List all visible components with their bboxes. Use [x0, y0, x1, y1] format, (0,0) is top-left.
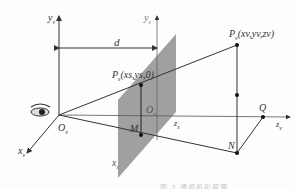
diagram-canvas: yv ys d Pv(xv,yv,zv) Ps(xs,ys,0) Ov Os M… — [0, 0, 295, 189]
z-axis — [59, 115, 290, 117]
n-q-line — [237, 117, 263, 153]
q-label: Q — [259, 103, 266, 113]
point-pv — [235, 43, 239, 47]
point-m — [139, 133, 143, 137]
point-n — [235, 151, 239, 155]
ys-label: ys — [144, 13, 151, 25]
d-label: d — [114, 37, 120, 48]
xs-label: xs — [112, 158, 119, 170]
zv-label: zv — [276, 121, 282, 131]
ps-label: Ps(xs,ys,0) — [112, 70, 154, 82]
zs-label: zs — [174, 120, 179, 130]
xv-label: xv — [18, 146, 25, 158]
pv-label: Pv(xv,yv,zv) — [229, 29, 274, 41]
ov-label: Ov — [58, 123, 68, 135]
figure-caption: 图 2 透视投影原理 — [160, 182, 228, 189]
n-label: N — [228, 141, 235, 151]
xv-axis — [27, 115, 59, 153]
point-q — [261, 115, 265, 119]
point-ps — [139, 83, 143, 87]
yv-label: yv — [48, 13, 55, 25]
os-label: Os — [146, 105, 156, 117]
point-mid — [235, 93, 239, 97]
m-label: M — [130, 124, 138, 134]
eye-icon — [31, 104, 50, 116]
